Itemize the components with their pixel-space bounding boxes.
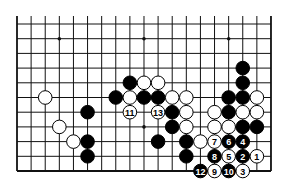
white-stone-move-3: 3 [236, 164, 250, 178]
black-stone [151, 135, 165, 149]
star-point [227, 37, 231, 41]
white-stone [180, 91, 194, 105]
white-stone-move-5: 5 [222, 150, 236, 164]
move-number: 12 [195, 167, 205, 177]
black-stone [236, 76, 250, 90]
white-stone [222, 120, 236, 134]
black-stone [236, 91, 250, 105]
white-stone [67, 135, 81, 149]
black-stone [81, 105, 95, 119]
move-number: 11 [125, 108, 135, 118]
black-stone-move-10: 10 [222, 164, 236, 178]
white-stone [53, 120, 67, 134]
black-stone [236, 61, 250, 75]
black-stone-move-12: 12 [194, 164, 208, 178]
move-number: 9 [212, 167, 217, 177]
white-stone [250, 91, 264, 105]
white-stone [165, 91, 179, 105]
black-stone [165, 105, 179, 119]
white-stone-move-9: 9 [208, 164, 222, 178]
white-stone [180, 105, 194, 119]
black-stone [109, 91, 123, 105]
black-stone [180, 150, 194, 164]
white-stone-move-13: 13 [151, 105, 165, 119]
go-board: 11137648521129103 [0, 0, 286, 191]
star-point [142, 125, 146, 129]
star-point [142, 37, 146, 41]
white-stone [38, 91, 52, 105]
white-stone [194, 135, 208, 149]
white-stone-move-7: 7 [208, 135, 222, 149]
white-stone [151, 76, 165, 90]
white-stone [236, 105, 250, 119]
black-stone [250, 120, 264, 134]
black-stone [123, 76, 137, 90]
black-stone [81, 135, 95, 149]
black-stone [222, 105, 236, 119]
black-stone-move-6: 6 [222, 135, 236, 149]
move-number: 4 [240, 137, 245, 147]
move-number: 10 [224, 167, 234, 177]
move-number: 13 [153, 108, 163, 118]
black-stone-move-2: 2 [236, 150, 250, 164]
star-point [58, 37, 62, 41]
black-stone [222, 91, 236, 105]
black-stone [165, 120, 179, 134]
black-stone [151, 91, 165, 105]
black-stone [81, 150, 95, 164]
white-stone-move-11: 11 [123, 105, 137, 119]
white-stone [208, 120, 222, 134]
white-stone-move-1: 1 [250, 150, 264, 164]
white-stone [123, 91, 137, 105]
move-number: 8 [212, 152, 217, 162]
black-stone-move-8: 8 [208, 150, 222, 164]
move-number: 5 [226, 152, 231, 162]
white-stone [250, 105, 264, 119]
white-stone [137, 76, 151, 90]
stones: 11137648521129103 [38, 61, 263, 178]
black-stone [180, 135, 194, 149]
move-number: 3 [240, 167, 245, 177]
black-stone [137, 91, 151, 105]
move-number: 2 [240, 152, 245, 162]
white-stone [180, 120, 194, 134]
move-number: 7 [212, 137, 217, 147]
move-number: 6 [226, 137, 231, 147]
black-stone-move-4: 4 [236, 135, 250, 149]
white-stone [208, 105, 222, 119]
move-number: 1 [254, 152, 259, 162]
black-stone [236, 120, 250, 134]
